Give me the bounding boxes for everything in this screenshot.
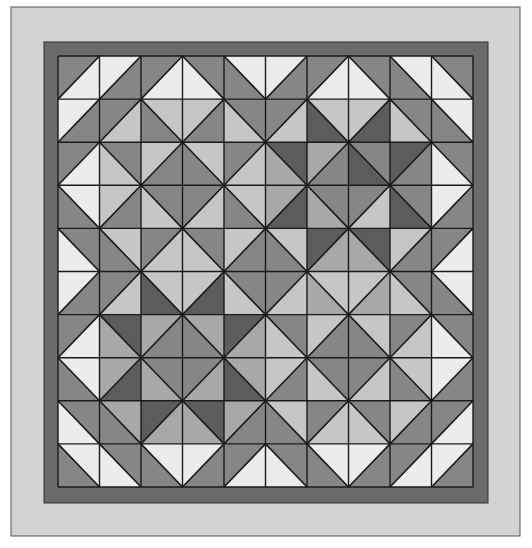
hst-cell [432,401,474,444]
hst-cell [349,56,391,99]
hst-cell [58,315,100,358]
hst-cell [266,228,308,271]
hst-cell [141,185,183,228]
hst-cell [183,99,225,142]
hst-cell [432,56,474,99]
hst-cell [307,228,349,271]
hst-cell [100,272,142,315]
hst-cell [390,56,432,99]
hst-cell [224,444,266,487]
hst-cell [141,315,183,358]
hst-cell [349,358,391,401]
hst-cell [307,185,349,228]
hst-cell [183,228,225,271]
hst-cell [307,444,349,487]
hst-cell [58,142,100,185]
hst-cell [100,56,142,99]
hst-cell [183,272,225,315]
hst-cell [349,228,391,271]
hst-cell [432,358,474,401]
hst-cell [432,185,474,228]
hst-cell [183,185,225,228]
hst-cell [100,401,142,444]
hst-cell [432,142,474,185]
hst-cell [141,142,183,185]
hst-cell [390,185,432,228]
hst-cell [390,272,432,315]
hst-cell [432,444,474,487]
hst-cell [266,444,308,487]
hst-cell [307,358,349,401]
hst-cell [390,315,432,358]
hst-cell [183,56,225,99]
hst-cell [307,401,349,444]
hst-cell [100,358,142,401]
hst-cell [349,185,391,228]
hst-cell [432,315,474,358]
hst-cell [183,315,225,358]
hst-cell [224,99,266,142]
hst-cell [183,444,225,487]
hst-cell [58,185,100,228]
hst-cell [307,99,349,142]
hst-cell [266,56,308,99]
hst-cell [349,99,391,142]
hst-cell [432,272,474,315]
hst-cell [100,315,142,358]
hst-cell [224,185,266,228]
quilt-diagram [0,0,532,548]
hst-cell [141,228,183,271]
hst-cell [307,272,349,315]
hst-cell [58,56,100,99]
hst-cell [58,272,100,315]
hst-cell [349,444,391,487]
hst-cell [307,142,349,185]
hst-cell [183,142,225,185]
hst-cell [266,315,308,358]
hst-cell [266,358,308,401]
hst-cell [224,142,266,185]
hst-cell [432,99,474,142]
hst-cell [266,401,308,444]
hst-cell [141,56,183,99]
hst-cell [183,401,225,444]
hst-cell [224,272,266,315]
hst-cell [266,142,308,185]
hst-cell [266,272,308,315]
hst-cell [224,228,266,271]
hst-cell [349,401,391,444]
hst-cell [58,444,100,487]
hst-cell [349,315,391,358]
hst-cell [390,401,432,444]
hst-cell [390,358,432,401]
hst-cell [349,272,391,315]
hst-cell [224,56,266,99]
hst-cell [100,228,142,271]
hst-cell [141,401,183,444]
hst-cell [390,228,432,271]
hst-cell [58,401,100,444]
hst-cell [224,358,266,401]
hst-cell [390,444,432,487]
hst-cell [100,444,142,487]
hst-cell [141,444,183,487]
hst-cell [141,99,183,142]
hst-cell [100,185,142,228]
hst-cell [266,185,308,228]
hst-cell [100,142,142,185]
hst-cell [307,56,349,99]
hst-cell [307,315,349,358]
hst-cell [349,142,391,185]
hst-cell [266,99,308,142]
hst-cell [390,142,432,185]
hst-cell [432,228,474,271]
hst-cell [141,272,183,315]
hst-cell [58,358,100,401]
hst-cell [58,228,100,271]
hst-cell [100,99,142,142]
hst-cell [58,99,100,142]
hst-cell [224,401,266,444]
hst-cell [224,315,266,358]
hst-cell [390,99,432,142]
hst-cell [183,358,225,401]
